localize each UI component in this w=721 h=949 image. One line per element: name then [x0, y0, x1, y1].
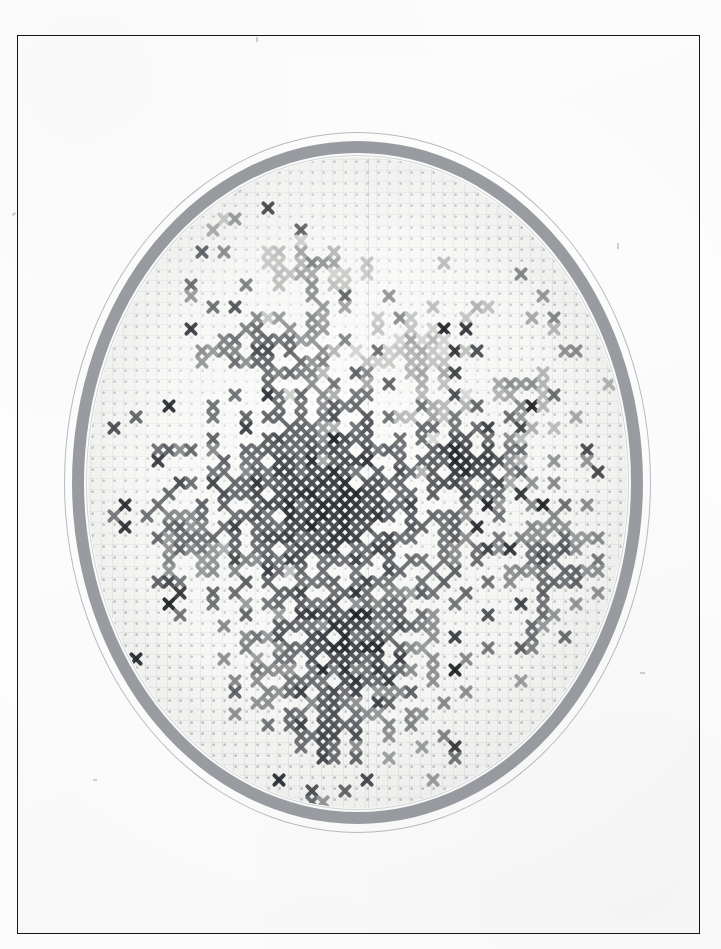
cross-stitch-pattern [88, 157, 627, 808]
scan-speck [12, 212, 16, 216]
scan-speck [640, 672, 645, 674]
scan-speck [617, 243, 619, 249]
screenshot-root [0, 0, 721, 949]
aida-fabric [88, 157, 627, 808]
scan-speck [256, 37, 258, 42]
photo-border [17, 35, 700, 934]
scan-speck [93, 779, 97, 781]
embroidery-hoop [64, 132, 651, 833]
fabric-crease [368, 157, 369, 808]
